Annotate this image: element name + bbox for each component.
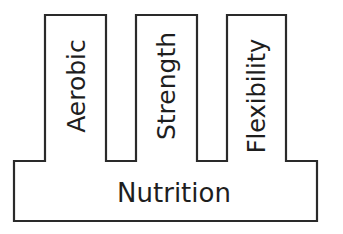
fitness-pillars-diagram: Aerobic Strength Flexibility Nutrition <box>0 0 343 234</box>
pillar-strength: Strength <box>152 32 181 140</box>
pillar-aerobic: Aerobic <box>62 39 91 133</box>
pillar-label-strength: Strength <box>152 32 181 140</box>
foundation-label-nutrition: Nutrition <box>117 178 231 208</box>
pillar-label-aerobic: Aerobic <box>62 39 91 133</box>
pillar-label-flexibility: Flexibility <box>243 39 271 154</box>
pillar-flexibility: Flexibility <box>243 39 271 154</box>
